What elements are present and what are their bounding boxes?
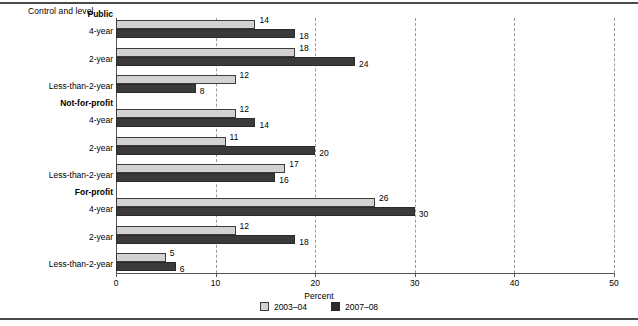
bar-value-label: 18 xyxy=(299,237,308,247)
bar xyxy=(116,262,176,271)
category-label: 2-year xyxy=(89,143,113,153)
legend-swatch-icon xyxy=(331,302,340,311)
bar xyxy=(116,57,355,66)
bar-value-label: 26 xyxy=(379,193,388,203)
bar-value-label: 18 xyxy=(299,31,308,41)
category-label: 4-year xyxy=(89,115,113,125)
chart-legend: 2003–042007–08 xyxy=(0,302,638,312)
bar xyxy=(116,109,236,118)
x-tick-label-30: 30 xyxy=(395,278,435,288)
x-tick-20 xyxy=(315,273,316,277)
x-tick-label-40: 40 xyxy=(494,278,534,288)
legend-label: 2007–08 xyxy=(345,302,378,312)
bar xyxy=(116,118,255,127)
x-tick-label-20: 20 xyxy=(295,278,335,288)
x-tick-10 xyxy=(216,273,217,277)
legend-label: 2003–04 xyxy=(274,302,307,312)
category-label: 4-year xyxy=(89,204,113,214)
bar-value-label: 12 xyxy=(240,70,249,80)
bar xyxy=(116,207,415,216)
bar-value-label: 17 xyxy=(289,159,298,169)
bottom-divider xyxy=(0,318,638,320)
bar xyxy=(116,48,295,57)
category-label: Less-than-2-year xyxy=(49,259,113,269)
x-tick-50 xyxy=(614,273,615,277)
x-tick-0 xyxy=(116,273,117,277)
bar-value-label: 16 xyxy=(279,175,288,185)
gridline-50 xyxy=(614,18,615,273)
chart-figure: Control and level 01020304050 Percent Pu… xyxy=(0,0,638,326)
bar-value-label: 18 xyxy=(299,43,308,53)
group-header-for-profit: For-profit xyxy=(75,187,113,197)
bar-value-label: 12 xyxy=(240,104,249,114)
x-tick-label-50: 50 xyxy=(594,278,634,288)
bar xyxy=(116,173,275,182)
category-label: 2-year xyxy=(89,54,113,64)
legend-item: 2003–04 xyxy=(260,302,307,312)
bar-value-label: 5 xyxy=(170,248,175,258)
gridline-30 xyxy=(415,18,416,273)
bar-value-label: 14 xyxy=(259,120,268,130)
x-tick-30 xyxy=(415,273,416,277)
top-divider xyxy=(0,2,638,4)
category-label: 2-year xyxy=(89,232,113,242)
bar xyxy=(116,164,285,173)
bar xyxy=(116,146,315,155)
bar-value-label: 24 xyxy=(359,59,368,69)
bar-value-label: 20 xyxy=(319,148,328,158)
x-axis-title: Percent xyxy=(0,291,638,301)
bar-value-label: 8 xyxy=(200,86,205,96)
bar-value-label: 6 xyxy=(180,264,185,274)
gridline-40 xyxy=(514,18,515,273)
legend-item: 2007–08 xyxy=(331,302,378,312)
bar xyxy=(116,137,226,146)
group-header-not-for-profit: Not-for-profit xyxy=(60,98,113,108)
bar-value-label: 30 xyxy=(419,209,428,219)
bar-value-label: 11 xyxy=(230,132,239,142)
x-tick-40 xyxy=(514,273,515,277)
x-axis-line xyxy=(116,273,615,274)
bar xyxy=(116,198,375,207)
bar xyxy=(116,84,196,93)
bar xyxy=(116,75,236,84)
legend-swatch-icon xyxy=(260,302,269,311)
group-header-public: Public xyxy=(87,9,113,19)
y-axis-title: Control and level xyxy=(28,6,94,16)
category-label: Less-than-2-year xyxy=(49,170,113,180)
bar-value-label: 12 xyxy=(240,221,249,231)
x-tick-label-10: 10 xyxy=(196,278,236,288)
bar xyxy=(116,253,166,262)
bar xyxy=(116,235,295,244)
bar-value-label: 14 xyxy=(259,15,268,25)
x-tick-label-0: 0 xyxy=(96,278,136,288)
category-label: 4-year xyxy=(89,26,113,36)
bar xyxy=(116,20,255,29)
bar xyxy=(116,29,295,38)
bar xyxy=(116,226,236,235)
category-label: Less-than-2-year xyxy=(49,81,113,91)
